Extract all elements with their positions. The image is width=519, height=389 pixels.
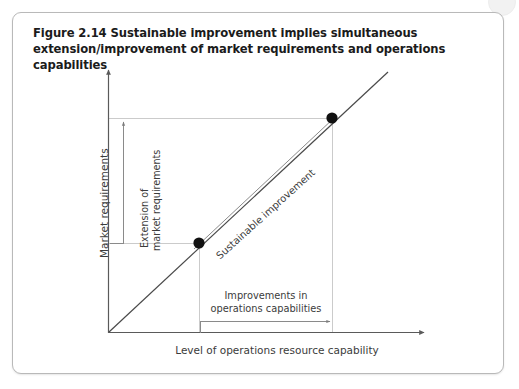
figure-panel: Figure 2.14Sustainable improvement impli… bbox=[12, 12, 504, 374]
extension-label-line-2: market requirements bbox=[151, 150, 162, 251]
figure-caption: Figure 2.14Sustainable improvement impli… bbox=[33, 25, 488, 73]
improvements-label-line-2: operations capabilities bbox=[186, 303, 346, 316]
y-axis-label: Market requirements bbox=[98, 148, 110, 258]
improvements-label: Improvements in operations capabilities bbox=[186, 290, 346, 315]
improvements-label-line-1: Improvements in bbox=[186, 290, 346, 303]
x-axis-label: Level of operations resource capability bbox=[152, 344, 402, 356]
extension-label-line-1: Extension of bbox=[139, 189, 150, 248]
figure-number: Figure 2.14 bbox=[33, 26, 107, 40]
